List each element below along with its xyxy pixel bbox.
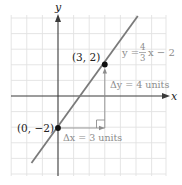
equation-rhs: x − 2 — [148, 47, 175, 58]
delta-y-arrow-icon — [103, 68, 107, 74]
delta-x-label: Δx = 3 units — [63, 132, 122, 143]
point-0-neg2 — [55, 125, 61, 131]
x-axis-label: x — [171, 90, 178, 103]
point-label-3-2: (3, 2) — [72, 51, 100, 63]
equation-label: y = 4 3 x − 2 — [121, 42, 175, 63]
delta-x-arrow-icon — [99, 126, 105, 130]
point-3-2 — [102, 62, 108, 68]
equation-denominator: 3 — [140, 53, 145, 63]
axes — [11, 14, 170, 176]
slope-triangle — [58, 70, 105, 128]
equation-lhs: y = — [121, 47, 139, 58]
equation-numerator: 4 — [140, 42, 145, 52]
y-axis-label: y — [54, 1, 62, 14]
delta-y-label: Δy = 4 units — [110, 79, 169, 90]
point-label-0-neg2: (0, −2) — [17, 122, 54, 134]
coordinate-graph: x y (3, 2) (0, −2) y = 4 3 x − 2 Δy = 4 … — [0, 0, 182, 185]
